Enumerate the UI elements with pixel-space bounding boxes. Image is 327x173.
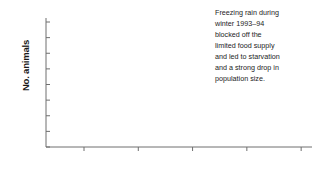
chart-figure: No. animals Freezing rain during winter … <box>0 0 327 173</box>
y-axis-tick-labels <box>18 0 46 173</box>
annotation-text: Freezing rain during winter 1993–94 bloc… <box>215 8 319 85</box>
x-axis-tick-labels <box>0 149 327 163</box>
